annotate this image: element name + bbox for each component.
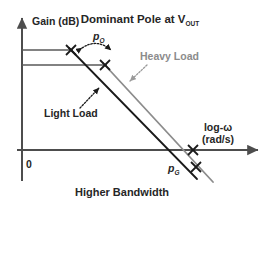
- heavy-load-pointer-arrow: [130, 65, 147, 81]
- dc-gain-levels: [22, 50, 107, 65]
- heavy-load-rolloff-curve: [103, 63, 213, 182]
- light-load-pointer-arrow: [80, 88, 99, 108]
- heavy-load-label: Heavy Load: [140, 50, 199, 62]
- light-load-label: Light Load: [44, 107, 98, 119]
- bode-plot-figure: Gain (dB) Dominant Pole at VOUT pO Heavy…: [0, 0, 272, 254]
- pole-out-label-subscript: O: [99, 37, 104, 44]
- annotation-arrows: [80, 43, 147, 108]
- pole-out-label: pO: [92, 30, 104, 44]
- origin-label: 0: [26, 158, 32, 170]
- x-axis-label-line2: (rad/s): [202, 133, 234, 145]
- x-axis-label-line1: log-ω: [204, 121, 232, 133]
- y-axis-label: Gain (dB): [32, 15, 79, 27]
- pole-gate-label-subscript: G: [174, 169, 179, 176]
- bode-plot-canvas: Gain (dB) Dominant Pole at VOUT pO Heavy…: [0, 0, 272, 254]
- figure-title: Dominant Pole at VOUT: [81, 13, 200, 27]
- pole-gate-label: pG: [167, 162, 179, 176]
- figure-title-main: Dominant Pole at V: [81, 13, 186, 25]
- figure-title-subscript: OUT: [186, 20, 200, 27]
- pole-shift-arrow: [82, 43, 111, 50]
- figure-caption: Higher Bandwidth: [75, 186, 169, 198]
